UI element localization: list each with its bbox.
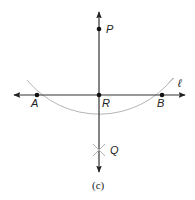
label-q: Q: [110, 144, 119, 156]
figure-caption: (c): [92, 179, 105, 192]
arc-extension: [166, 78, 174, 86]
point-r: [97, 93, 102, 98]
label-line-l: ℓ: [177, 77, 182, 89]
label-r: R: [102, 97, 110, 109]
label-p: P: [106, 23, 114, 35]
point-p: [97, 27, 102, 32]
diagram-canvas: P R A B Q ℓ (c): [0, 0, 195, 200]
label-b: B: [157, 97, 164, 109]
label-a: A: [30, 97, 38, 109]
